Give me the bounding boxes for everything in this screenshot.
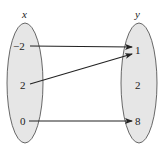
range-value: 2 <box>135 79 141 91</box>
mapping-diagram: x −2 2 0 y 1 2 8 <box>0 0 158 147</box>
domain-value: −2 <box>13 40 25 52</box>
mapping-arrow <box>30 46 132 47</box>
range-value: 1 <box>135 44 141 56</box>
domain-value: 0 <box>20 115 26 127</box>
domain-value: 2 <box>20 79 26 91</box>
domain-label: x <box>21 8 27 20</box>
range-value: 8 <box>135 115 141 127</box>
range-label: y <box>134 8 140 20</box>
mapping-arrow <box>30 54 132 84</box>
